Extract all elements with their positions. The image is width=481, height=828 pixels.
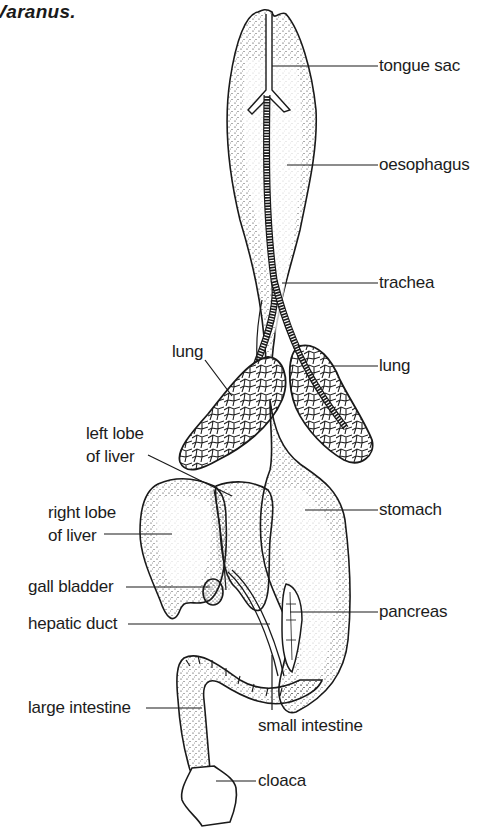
label-oesophagus: oesophagus [379, 155, 470, 175]
label-lung-left: lung [172, 342, 203, 362]
label-lung-right: lung [379, 356, 410, 376]
label-pancreas: pancreas [379, 602, 447, 622]
gall-bladder-shape [203, 579, 223, 605]
label-right-lobe-line1: right lobe [48, 503, 116, 523]
label-right-lobe-line2: of liver [48, 526, 96, 546]
label-cloaca: cloaca [258, 771, 306, 791]
label-stomach: stomach [379, 500, 442, 520]
label-small-intestine: small intestine [258, 716, 363, 736]
label-left-lobe-line1: left lobe [86, 424, 144, 444]
label-trachea: trachea [379, 273, 434, 293]
label-large-intestine: large intestine [28, 698, 131, 718]
label-gall-bladder: gall bladder [28, 577, 114, 597]
cloaca-shape [182, 766, 237, 826]
lung-right-shape [290, 345, 373, 462]
leader-lung-left [205, 360, 232, 396]
label-hepatic-duct: hepatic duct [28, 614, 117, 634]
label-left-lobe-line2: of liver [86, 447, 134, 467]
label-tongue-sac: tongue sac [379, 56, 460, 76]
